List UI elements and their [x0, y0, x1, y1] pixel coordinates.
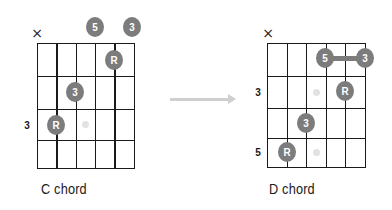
finger-dot-root: R	[278, 142, 296, 162]
d-chord-label: D chord	[269, 180, 315, 197]
fret-number-label: 3	[255, 87, 261, 98]
ghost-note-dot	[82, 121, 89, 128]
d-chord-string-line	[306, 43, 307, 168]
finger-dot-interval-3: 3	[356, 48, 374, 68]
c-chord-fret-line	[37, 168, 135, 169]
d-chord-string-line	[345, 43, 346, 168]
c-chord-fret-line	[37, 43, 135, 44]
c-chord-fret-line	[37, 140, 135, 141]
finger-dot-root: R	[336, 81, 354, 101]
c-chord-label: C chord	[41, 180, 87, 197]
mute-x-icon: ×	[262, 25, 274, 41]
c-chord-string-line	[37, 43, 38, 169]
c-chord-string-line	[76, 43, 77, 169]
finger-dot-interval-3: 3	[297, 113, 315, 133]
c-chord-string-line	[95, 43, 96, 169]
transition-arrow-icon	[170, 98, 229, 101]
d-chord-fret-line	[267, 108, 366, 109]
c-chord-string-line	[56, 43, 57, 169]
finger-dot-root: R	[47, 115, 65, 135]
arrow-head-icon	[228, 94, 236, 104]
finger-dot-root: R	[105, 50, 123, 70]
finger-dot-interval-5: 5	[316, 48, 334, 68]
d-chord-fret-line	[267, 43, 366, 44]
d-chord-fret-line	[267, 167, 366, 168]
c-chord-fret-line	[37, 76, 135, 77]
d-chord-fret-line	[267, 138, 366, 139]
d-chord-fret-line	[267, 76, 366, 77]
d-chord-string-line	[267, 43, 268, 168]
ghost-note-dot	[313, 149, 320, 156]
mute-x-icon: ×	[31, 25, 43, 41]
finger-dot-interval-3: 3	[66, 82, 84, 102]
fret-number-label: 5	[255, 147, 261, 158]
finger-dot-interval-3: 3	[123, 17, 141, 37]
finger-dot-interval-5: 5	[86, 17, 104, 37]
c-chord-fret-line	[37, 109, 135, 110]
c-chord-string-line	[134, 43, 135, 169]
ghost-note-dot	[313, 89, 320, 96]
fret-number-label: 3	[24, 120, 30, 131]
